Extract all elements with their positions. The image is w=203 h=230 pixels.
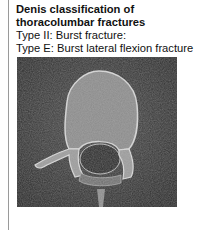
content-block: Denis classification of thoracolumbar fr…	[16, 3, 202, 55]
ct-scan-image	[17, 57, 177, 207]
left-border-rule	[8, 0, 9, 230]
heading: Denis classification of thoracolumbar fr…	[16, 3, 202, 29]
type-e-line: Type E: Burst lateral flexion fracture	[16, 42, 202, 55]
type-ii-line: Type II: Burst fracture:	[16, 29, 202, 42]
